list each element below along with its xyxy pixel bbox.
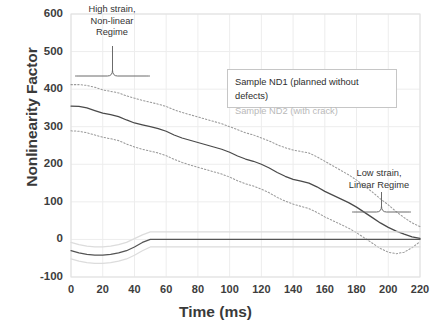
legend-item-nd2: Sample ND2 (with crack)	[235, 104, 389, 118]
plot-background	[71, 14, 420, 277]
annotation-low-strain: Low strain, Linear Regime	[336, 168, 422, 191]
legend-box: Sample ND1 (planned without defects) Sam…	[227, 69, 397, 108]
chart-figure: Nonlinearity Factor Time (ms) 6005004003…	[0, 0, 431, 336]
legend-item-nd1: Sample ND1 (planned without defects)	[235, 75, 389, 104]
annotation-high-strain: High strain, Non-linear Regime	[73, 4, 151, 39]
